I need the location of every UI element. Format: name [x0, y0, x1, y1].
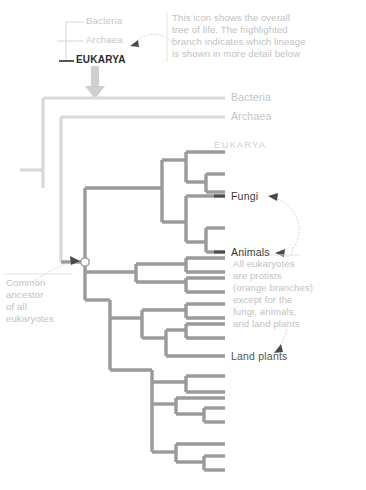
- icon-annotation-line-1: This icon shows the overall: [172, 12, 290, 24]
- inset-label-eukarya: EUKARYA: [76, 54, 126, 65]
- icon-annotation-line-2: tree of life. The highlighted: [172, 24, 288, 36]
- inset-label-archaea: Archaea: [86, 34, 123, 45]
- eukaryote-branches: [61, 152, 225, 470]
- protist-annotation-arrows: [268, 193, 299, 257]
- protist-annotation-line-2: are protists: [233, 270, 282, 282]
- protist-annotation-line-6: and land plants: [233, 318, 300, 330]
- common-ancestor-line-3: of all: [6, 301, 27, 313]
- prokaryote-branches: [20, 98, 225, 262]
- tip-label-land-plants: Land plants: [231, 350, 288, 362]
- icon-annotation-line-3: branch indicates which lineage: [172, 36, 306, 48]
- highlighted-branches: [214, 196, 225, 252]
- protist-annotation-line-4: except for the: [233, 294, 293, 306]
- protist-annotation-line-3: (orange branches): [233, 282, 313, 294]
- common-ancestor-line-1: Common: [6, 277, 46, 289]
- icon-annotation-arrow: [130, 34, 172, 47]
- tree-of-life-diagram: [0, 0, 366, 490]
- tip-label-bacteria: Bacteria: [231, 91, 271, 103]
- down-arrow-icon: [85, 66, 105, 99]
- icon-annotation-line-4: is shown in more detail below: [172, 48, 300, 60]
- tip-label-archaea: Archaea: [231, 110, 272, 122]
- inset-label-bacteria: Bacteria: [86, 15, 122, 26]
- protist-annotation-line-1: All eukaryotes: [233, 258, 295, 270]
- tip-label-eukarya: EUKARYA: [214, 139, 266, 150]
- eukaryote-common-ancestor-node: [81, 258, 89, 266]
- common-ancestor-line-4: eukaryotes: [6, 313, 54, 325]
- common-ancestor-line-2: ancestor: [6, 289, 44, 301]
- tip-label-animals: Animals: [231, 246, 270, 258]
- tip-label-fungi: Fungi: [231, 190, 258, 202]
- protist-annotation-line-5: fungi, animals,: [233, 306, 296, 318]
